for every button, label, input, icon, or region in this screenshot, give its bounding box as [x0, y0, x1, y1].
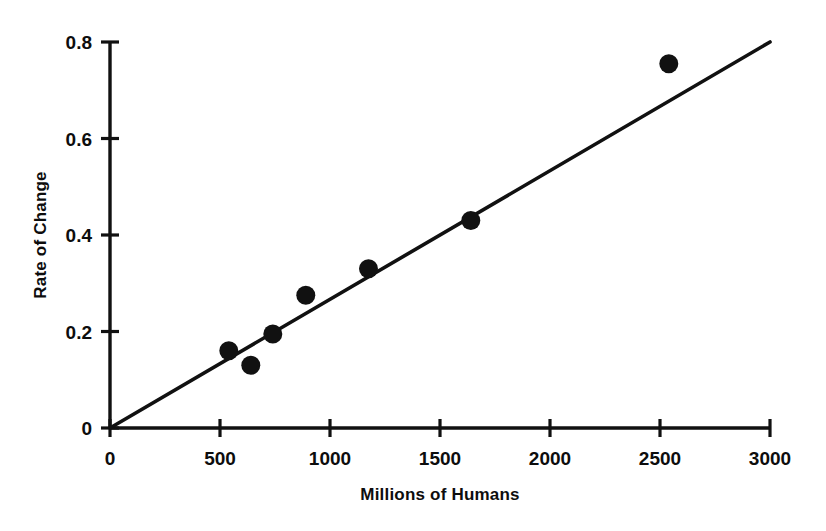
- data-point: [263, 324, 282, 343]
- y-tick-label: 0: [81, 418, 92, 439]
- data-point: [296, 286, 315, 305]
- x-tick-label: 2000: [529, 448, 571, 469]
- x-tick-label: 1000: [309, 448, 351, 469]
- x-axis-title: Millions of Humans: [360, 485, 519, 504]
- y-tick-label: 0.4: [66, 225, 93, 246]
- data-point: [359, 259, 378, 278]
- x-tick-label: 0: [105, 448, 116, 469]
- x-tick-label: 3000: [749, 448, 791, 469]
- y-tick-label: 0.2: [66, 322, 92, 343]
- x-tick-label: 500: [204, 448, 236, 469]
- x-tick-label: 1500: [419, 448, 461, 469]
- data-point: [461, 211, 480, 230]
- data-point: [219, 341, 238, 360]
- y-tick-label: 0.6: [66, 129, 92, 150]
- y-tick-label: 0.8: [66, 32, 92, 53]
- y-axis-title: Rate of Change: [31, 171, 50, 298]
- data-point: [241, 356, 260, 375]
- chart-container: 00.20.40.60.8 Rate of Change 05001000150…: [0, 0, 826, 531]
- x-tick-label: 2500: [639, 448, 681, 469]
- scatter-plot: 00.20.40.60.8 Rate of Change 05001000150…: [0, 0, 826, 531]
- data-point: [659, 54, 678, 73]
